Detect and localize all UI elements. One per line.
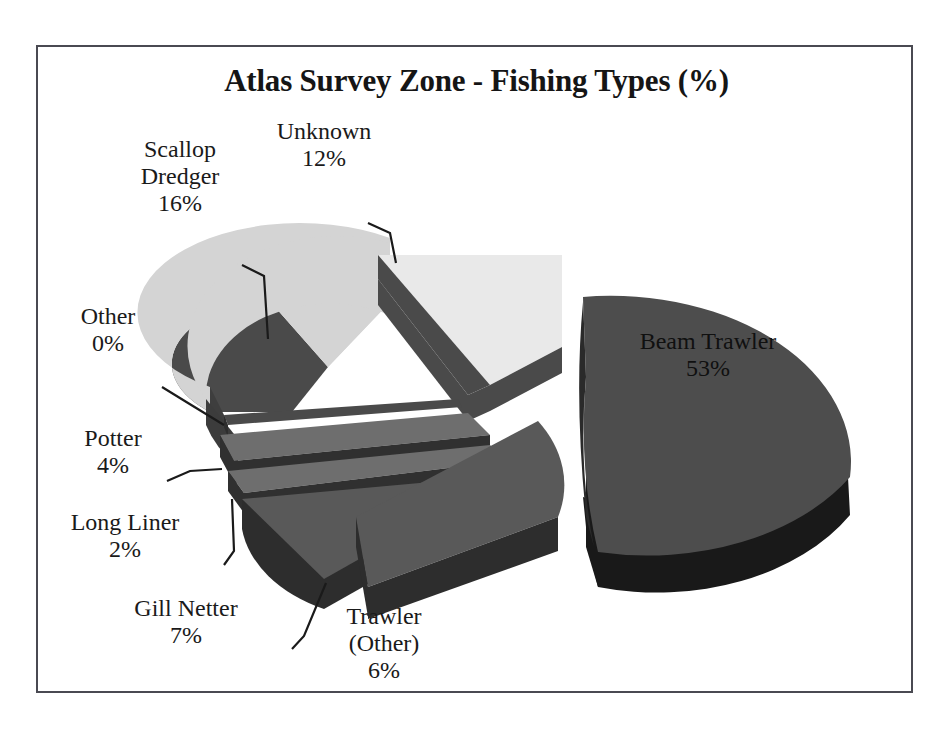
label-other-percent: 0% — [52, 330, 164, 357]
label-unknown-percent: 12% — [250, 145, 398, 172]
leader-line-potter — [167, 469, 222, 481]
label-scallop-dredger: Scallop Dredger 16% — [100, 136, 260, 217]
label-scallop-dredger-line2: Dredger — [100, 163, 260, 190]
label-other: Other 0% — [52, 303, 164, 357]
label-unknown: Unknown 12% — [250, 118, 398, 172]
label-beam-trawler-line1: Beam Trawler — [608, 328, 808, 355]
label-unknown-line1: Unknown — [250, 118, 398, 145]
label-gill-netter-percent: 7% — [100, 622, 272, 649]
label-scallop-dredger-line1: Scallop — [100, 136, 260, 163]
label-long-liner-percent: 2% — [44, 536, 206, 563]
label-gill-netter: Gill Netter 7% — [100, 595, 272, 649]
label-gill-netter-line1: Gill Netter — [100, 595, 272, 622]
label-long-liner: Long Liner 2% — [44, 509, 206, 563]
label-scallop-dredger-percent: 16% — [100, 190, 260, 217]
label-trawler-other: Trawler (Other) 6% — [308, 603, 460, 684]
label-potter-percent: 4% — [58, 452, 168, 479]
label-trawler-other-percent: 6% — [308, 657, 460, 684]
pie-slice-unknown[interactable] — [378, 255, 562, 421]
label-beam-trawler-percent: 53% — [608, 355, 808, 382]
label-other-line1: Other — [52, 303, 164, 330]
leader-line-long-liner — [224, 499, 234, 565]
label-potter-line1: Potter — [58, 425, 168, 452]
label-long-liner-line1: Long Liner — [44, 509, 206, 536]
label-trawler-other-line2: (Other) — [308, 630, 460, 657]
label-trawler-other-line1: Trawler — [308, 603, 460, 630]
chart-frame: Atlas Survey Zone - Fishing Types (%) — [36, 45, 913, 693]
label-beam-trawler: Beam Trawler 53% — [608, 328, 808, 382]
label-potter: Potter 4% — [58, 425, 168, 479]
